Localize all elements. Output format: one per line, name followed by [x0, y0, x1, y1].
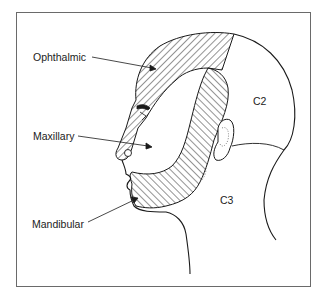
- label-mandibular: Mandibular: [32, 219, 84, 230]
- label-ophthalmic: Ophthalmic: [33, 52, 86, 63]
- head-dermatome-diagram: [0, 0, 328, 300]
- label-c3: C3: [220, 195, 233, 206]
- label-maxillary: Maxillary: [33, 131, 74, 142]
- c2-c3-boundary: [232, 143, 284, 150]
- head-outline: [234, 34, 295, 240]
- label-c2: C2: [253, 96, 266, 107]
- leader-maxillary: [78, 136, 152, 149]
- nostril: [125, 150, 132, 157]
- leader-mandibular: [88, 197, 138, 222]
